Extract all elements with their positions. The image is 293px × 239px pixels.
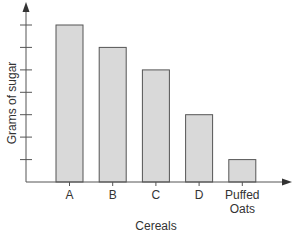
- x-category-label: Puffed: [225, 188, 259, 202]
- bars-group: [56, 25, 256, 182]
- x-axis-title: Cereals: [135, 219, 176, 233]
- x-category-label: A: [65, 188, 73, 202]
- x-category-label: Oats: [230, 202, 255, 216]
- bar-chart: ABCDPuffedOats Cereals Grams of sugar: [0, 0, 293, 239]
- x-axis-ticks: [70, 182, 243, 186]
- x-category-label: B: [109, 188, 117, 202]
- x-category-labels: ABCDPuffedOats: [65, 188, 259, 216]
- x-category-label: C: [152, 188, 161, 202]
- y-axis-arrow-icon: [23, 2, 30, 12]
- x-axis-arrow-icon: [282, 179, 292, 186]
- y-axis-title: Grams of sugar: [5, 62, 19, 145]
- bar-d: [186, 115, 213, 182]
- bar-puffed-oats: [229, 160, 256, 182]
- bar-a: [56, 25, 83, 182]
- bar-b: [99, 47, 126, 182]
- bar-c: [142, 70, 169, 182]
- x-category-label: D: [195, 188, 204, 202]
